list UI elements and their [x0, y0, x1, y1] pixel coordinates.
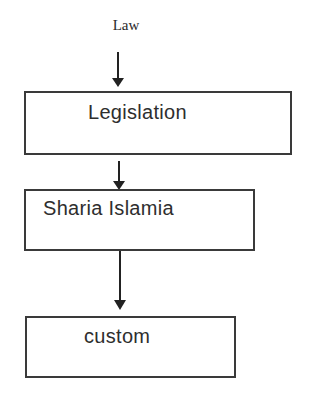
arrow-legislation-to-sharia	[113, 161, 125, 190]
node-legislation: Legislation	[24, 91, 292, 155]
node-label: Legislation	[26, 101, 290, 124]
node-label: custom	[27, 325, 234, 348]
arrow-head-icon	[114, 300, 126, 310]
arrow-law-to-legislation	[112, 52, 124, 87]
node-label: Sharia Islamia	[26, 197, 253, 220]
arrow-sharia-to-custom	[114, 251, 126, 310]
diagram-title-law: Law	[98, 17, 154, 34]
node-custom: custom	[25, 316, 236, 378]
arrow-head-icon	[112, 78, 124, 87]
node-sharia-islamia: Sharia Islamia	[24, 189, 255, 251]
